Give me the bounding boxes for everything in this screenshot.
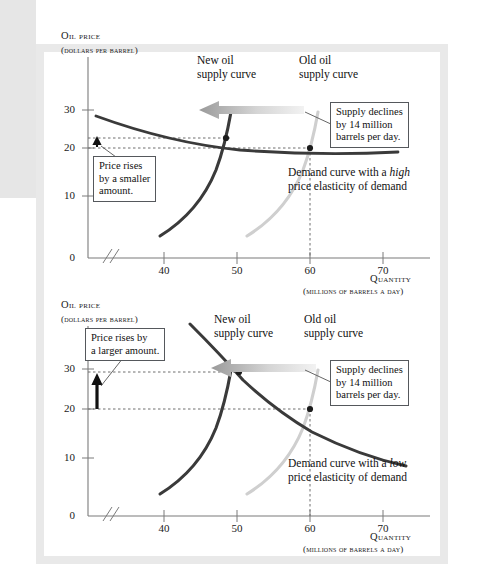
new-supply-curve-label-line1: New oil (214, 313, 251, 325)
demand-curve-label-line2: price elasticity of demand (288, 180, 407, 192)
new-supply-curve-label: New oil supply curve (214, 313, 273, 340)
demand-curve-label: Demand curve with a low price elasticity… (288, 456, 407, 484)
demand-curve-label-line2: price elasticity of demand (288, 471, 407, 483)
new-supply-curve-label-line2: supply curve (214, 327, 273, 339)
supply-decline-callout-line3: barrels per day. (336, 389, 400, 400)
supply-shift-arrow (199, 101, 304, 119)
y-tick-label-30: 30 (47, 103, 75, 115)
y-tick-label-10: 10 (47, 451, 75, 463)
old-supply-curve-label-line2: supply curve (299, 68, 358, 80)
new-supply-curve-label-line2: supply curve (197, 68, 256, 80)
supply-decline-callout-line2: by 14 million (336, 377, 393, 388)
axis-break-mark (103, 249, 119, 263)
new-supply-curve-label-line1: New oil (197, 54, 234, 66)
x-tick-label-40: 40 (150, 264, 178, 276)
x-tick-label-50: 50 (223, 264, 251, 276)
old-supply-curve-label: Old oil supply curve (299, 54, 358, 81)
price-rise-callout-line3: amount. (99, 185, 133, 196)
new-supply-curve-label: New oil supply curve (197, 54, 256, 81)
price-rise-arrow (91, 373, 102, 409)
x-tick-label-40: 40 (150, 522, 178, 534)
y-tick-label-20: 20 (47, 141, 75, 153)
new-supply-curve (160, 112, 231, 236)
x-tick-label-60: 60 (296, 264, 324, 276)
x-axis-subtitle: (millions of barrels a day) (303, 544, 404, 554)
price-rise-callout-line2: by a smaller (99, 173, 150, 184)
figure-page: Oil price (dollars per barrel) (0, 0, 482, 578)
old-equilibrium-point (307, 145, 313, 151)
price-rise-callout-line2: a larger amount. (91, 345, 159, 356)
old-supply-curve-label-line2: supply curve (304, 327, 363, 339)
old-equilibrium-point (307, 406, 313, 412)
axis-break-mark (103, 507, 119, 521)
new-supply-curve (160, 370, 231, 494)
old-supply-curve-label: Old oil supply curve (304, 313, 363, 340)
supply-decline-callout-line2: by 14 million (336, 119, 393, 130)
old-supply-curve-label-line1: Old oil (304, 313, 336, 325)
price-rise-callout-line1: Price rises (99, 160, 142, 171)
x-tick-label-50: 50 (223, 522, 251, 534)
demand-elasticity-emphasis: low (390, 457, 407, 469)
price-rise-callout: Price rises by a smaller amount. (93, 156, 156, 202)
y-tick-label-30: 30 (47, 362, 75, 374)
demand-curve-label-line1: Demand curve with a low (288, 457, 406, 469)
supply-decline-callout: Supply declines by 14 million barrels pe… (330, 360, 409, 406)
panel-low-elasticity: Oil price (dollars per barrel) (0, 288, 482, 578)
new-equilibrium-point (223, 135, 229, 141)
demand-curve-label: Demand curve with a high price elasticit… (288, 165, 410, 193)
supply-decline-callout: Supply declines by 14 million barrels pe… (330, 102, 409, 148)
price-rise-callout: Price rises by a larger amount. (85, 328, 165, 361)
supply-decline-callout-line1: Supply declines (336, 364, 403, 375)
price-rise-callout-line1: Price rises by (91, 332, 148, 343)
y-tick-label-0: 0 (47, 509, 75, 521)
y-tick-label-20: 20 (47, 402, 75, 414)
y-tick-label-10: 10 (47, 189, 75, 201)
x-axis-title: Quantity (370, 531, 411, 542)
x-tick-label-60: 60 (296, 522, 324, 534)
panel-high-elasticity: Oil price (dollars per barrel) (0, 0, 482, 290)
y-tick-label-0: 0 (47, 251, 75, 263)
old-supply-curve-label-line1: Old oil (299, 54, 331, 66)
equilibrium-guides (88, 372, 310, 516)
supply-decline-callout-line1: Supply declines (336, 106, 403, 117)
supply-shift-arrow (211, 359, 316, 377)
x-axis-title: Quantity (370, 273, 411, 284)
supply-decline-callout-line3: barrels per day. (336, 131, 400, 142)
demand-elasticity-emphasis: high (390, 166, 410, 178)
demand-curve-label-line1: Demand curve with a high (288, 166, 410, 178)
